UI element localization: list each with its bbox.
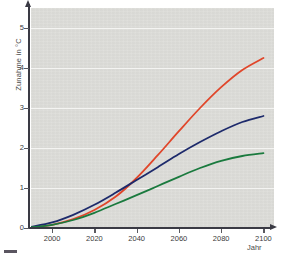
y-tick-label: 2: [12, 144, 24, 152]
y-tick-label: 0: [12, 224, 24, 232]
x-axis-title: Jahr: [247, 243, 262, 252]
temperature-increase-chart: Zunahme in °C 012345 2000202020402060208…: [0, 0, 284, 257]
x-tick-mark: [221, 229, 222, 233]
series-line-mid: [31, 116, 263, 227]
x-tick-mark: [263, 229, 264, 233]
series-curves: [31, 8, 274, 228]
y-tick-mark: [24, 68, 29, 69]
y-tick-mark: [24, 28, 29, 29]
x-tick-label: 2060: [171, 234, 188, 243]
y-tick-label: 5: [12, 24, 24, 32]
x-tick-label: 2040: [128, 234, 145, 243]
legend-marker-stub: [4, 250, 17, 253]
x-tick-mark: [179, 229, 180, 233]
y-axis-arrow-icon: [25, 0, 31, 7]
series-line-high: [31, 58, 263, 227]
x-tick-mark: [94, 229, 95, 233]
y-tick-mark: [24, 108, 29, 109]
x-tick-label: 2000: [44, 234, 61, 243]
x-tick-label: 2020: [86, 234, 103, 243]
x-tick-mark: [137, 229, 138, 233]
x-axis-arrow-icon: [270, 224, 277, 230]
y-tick-label: 3: [12, 104, 24, 112]
x-tick-mark: [52, 229, 53, 233]
y-tick-label: 4: [12, 64, 24, 72]
series-line-low: [31, 153, 263, 227]
y-axis-line: [28, 4, 30, 228]
y-tick-label: 1: [12, 184, 24, 192]
x-tick-label: 2100: [255, 234, 272, 243]
x-tick-label: 2080: [213, 234, 230, 243]
x-axis-line: [28, 227, 272, 229]
plot-area: [31, 8, 274, 228]
y-tick-mark: [24, 148, 29, 149]
y-tick-mark: [24, 188, 29, 189]
y-tick-mark: [24, 228, 29, 229]
